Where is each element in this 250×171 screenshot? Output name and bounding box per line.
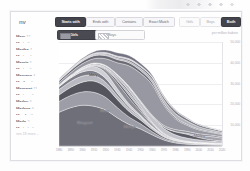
y-tick-label: 40,000 (230, 61, 240, 65)
x-tick-label: 1940 (126, 148, 132, 152)
match-mode-exact-match[interactable]: Exact Match (143, 17, 175, 27)
chart-band-label: Margaret (77, 120, 92, 125)
chart-band-label: Mary (89, 72, 98, 77)
name-count: 5 (32, 127, 34, 129)
app-logo: nv (19, 18, 33, 27)
chrome-toolbar-icons (184, 2, 244, 7)
chart-band-label: Marie (101, 108, 110, 113)
x-axis-line (59, 146, 222, 147)
girls-swatch-icon (60, 33, 71, 40)
x-tick-label: 1960 (149, 148, 155, 152)
y-tick-label: 50,000 (230, 40, 240, 44)
y-tick-label: 10,000 (230, 123, 240, 127)
name-label: Marjorie (16, 126, 31, 129)
screenshot-root: nv Mary12Marie9Martha7Marion6Margie5Mari… (0, 0, 250, 171)
gender-filter-boys[interactable]: Boys (200, 17, 221, 27)
y-axis-ticks: 50,00040,00030,00020,00010,000 (224, 42, 241, 146)
stacked-area-chart[interactable]: MaryMargaretMarieMarilynMarley (59, 42, 222, 146)
x-tick-label: 1880 (56, 148, 62, 152)
x-axis-ticks: 1880189019001910192019301940195019601970… (59, 148, 222, 156)
list-item[interactable]: Marjorie5 (16, 122, 54, 129)
x-tick-label: 2010 (207, 148, 213, 152)
toolbar: Starts with Ends with Contains Exact Mat… (55, 16, 239, 28)
x-tick-label: 1950 (137, 148, 143, 152)
chart-areas (59, 42, 222, 146)
app-card: nv Mary12Marie9Martha7Marion6Margie5Mari… (10, 11, 242, 161)
chart-band-label: Marley (194, 133, 205, 138)
x-tick-label: 2020 (219, 148, 225, 152)
legend-boys-label: Boys (108, 32, 116, 37)
x-tick-label: 1900 (79, 148, 85, 152)
legend-girls-label: Girls (70, 32, 78, 37)
match-mode-contains[interactable]: Contains (115, 17, 143, 27)
y-tick-label: 30,000 (230, 82, 240, 86)
x-tick-label: 2000 (196, 148, 202, 152)
x-tick-label: 1930 (114, 148, 120, 152)
y-tick-label: 20,000 (230, 102, 240, 106)
x-tick-label: 1890 (67, 148, 73, 152)
see-more-link[interactable]: see 18 more… (16, 132, 54, 136)
match-mode-starts-with[interactable]: Starts with (55, 17, 86, 27)
x-tick-label: 1920 (102, 148, 108, 152)
chart-band-label: Marilyn (124, 124, 136, 129)
x-tick-label: 1990 (184, 148, 190, 152)
gender-filter-both[interactable]: Both (221, 17, 241, 27)
browser-chrome-ghost (0, 0, 250, 9)
name-result-list[interactable]: Mary12Marie9Martha7Marion6Margie5Marina5… (16, 30, 54, 128)
legend-toggle-boys[interactable]: Boys (95, 30, 145, 40)
x-tick-label: 1980 (172, 148, 178, 152)
y-axis-line (222, 42, 223, 146)
y-axis-caption: per million babies (212, 31, 238, 35)
match-mode-ends-with[interactable]: Ends with (86, 17, 115, 27)
gender-filter-girls[interactable]: Girls (179, 17, 200, 27)
sidebar: nv Mary12Marie9Martha7Marion6Margie5Mari… (13, 14, 55, 158)
x-tick-label: 1970 (161, 148, 167, 152)
x-tick-label: 1910 (91, 148, 97, 152)
boys-swatch-icon (98, 33, 109, 40)
